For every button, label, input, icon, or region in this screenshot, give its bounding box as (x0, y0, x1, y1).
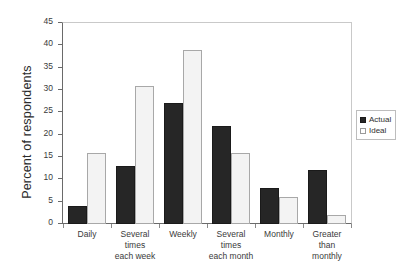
x-axis-category-label: Monthly (255, 229, 303, 261)
chart-legend: ActualIdeal (356, 110, 396, 140)
y-axis-tick-label: 5 (48, 195, 53, 205)
x-axis-category-label: Daily (63, 229, 111, 261)
empty-square-icon (360, 128, 366, 134)
bar-ideal (135, 86, 154, 224)
x-axis-tick-mark (63, 224, 64, 228)
bar-actual (212, 126, 231, 224)
y-axis-tick-label: 25 (44, 105, 53, 115)
y-axis-tick-label: 10 (44, 172, 53, 182)
x-axis-category-label: Several timeseach month (207, 229, 255, 261)
bar-actual (68, 206, 87, 224)
bar-ideal (327, 215, 346, 224)
x-axis-category-label: Several timeseach week (111, 229, 159, 261)
bar-actual (260, 188, 279, 224)
legend-item: Actual (360, 114, 391, 125)
bar-group (159, 23, 207, 224)
x-axis-tick-mark (111, 224, 112, 228)
filled-square-icon (360, 117, 366, 123)
bar-group (255, 23, 303, 224)
bar-actual (116, 166, 135, 224)
y-axis-ticks: 454035302520151050 (0, 22, 62, 224)
y-axis-tick-label: 0 (48, 217, 53, 227)
y-axis-tick-label: 30 (44, 83, 53, 93)
bar-chart: Percent of respondents 45403530252015105… (0, 0, 408, 264)
bar-ideal (231, 153, 250, 224)
x-axis-labels: DailySeveral timeseach weekWeeklySeveral… (63, 229, 351, 261)
y-axis-tick-label: 40 (44, 38, 53, 48)
x-axis-tick-mark (255, 224, 256, 228)
bar-group (207, 23, 255, 224)
bar-actual (164, 103, 183, 224)
x-axis-tick-mark (351, 224, 352, 228)
legend-item: Ideal (360, 125, 391, 136)
x-axis-tick-mark (207, 224, 208, 228)
x-axis-category-label: Weekly (159, 229, 207, 261)
y-axis-tick-label: 35 (44, 61, 53, 71)
bar-ideal (87, 153, 106, 224)
bar-group (111, 23, 159, 224)
bar-actual (308, 170, 327, 224)
y-axis-tick-label: 15 (44, 150, 53, 160)
x-axis-category-label: Greater thanmonthly (303, 229, 351, 261)
bar-group (303, 23, 351, 224)
bars-layer (63, 23, 351, 224)
y-axis-tick-label: 45 (44, 16, 53, 26)
y-axis-tick-label: 20 (44, 128, 53, 138)
x-axis-tick-mark (303, 224, 304, 228)
legend-item-label: Actual (369, 115, 391, 124)
x-axis-tick-mark (159, 224, 160, 228)
bar-ideal (279, 197, 298, 224)
legend-item-label: Ideal (369, 126, 386, 135)
bar-ideal (183, 50, 202, 224)
bar-group (63, 23, 111, 224)
